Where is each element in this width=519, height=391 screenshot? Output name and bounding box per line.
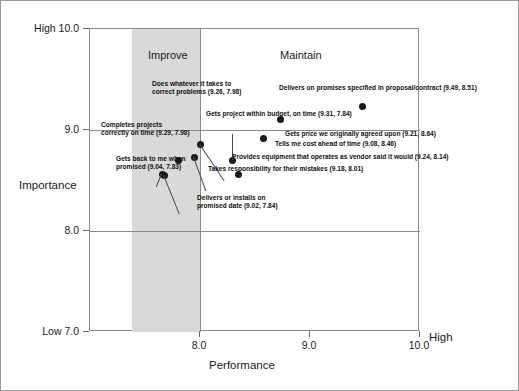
axis-end-label-high: High bbox=[429, 331, 453, 343]
point-label: Delivers on promises specified in propos… bbox=[279, 84, 477, 92]
tick-x-9 bbox=[309, 331, 310, 337]
point-label: Gets project within budget, on time (9.3… bbox=[206, 110, 352, 118]
point-label: Delivers or installs on promised date (9… bbox=[197, 194, 278, 210]
tick-y-8 bbox=[83, 230, 89, 231]
tick-label-y-7: Low 7.0 bbox=[15, 325, 79, 337]
tick-label-y-9: 9.0 bbox=[15, 123, 79, 135]
point-label: Gets price we originally agreed upon (9.… bbox=[285, 130, 436, 138]
axis-title-performance: Performance bbox=[209, 359, 275, 371]
scatter-chart-figure: Improve Maintain High 10.0 9.0 8.0 Low 7… bbox=[0, 0, 519, 391]
tick-label-x-8: 8.0 bbox=[176, 339, 222, 351]
tick-y-9 bbox=[83, 129, 89, 130]
quadrant-label-maintain: Maintain bbox=[280, 49, 322, 61]
quadrant-label-improve: Improve bbox=[148, 49, 188, 61]
point-label: Completes projects correctly on time (9.… bbox=[101, 121, 190, 137]
tick-y-10 bbox=[83, 28, 89, 29]
tick-label-y-10: High 10.0 bbox=[15, 22, 79, 34]
tick-label-x-9: 9.0 bbox=[286, 339, 332, 351]
point-label: Tells me cost ahead of time (9.08, 8.46) bbox=[275, 140, 396, 148]
plot-area: Improve Maintain bbox=[89, 28, 419, 331]
tick-x-10 bbox=[419, 331, 420, 337]
tick-label-y-8: 8.0 bbox=[15, 224, 79, 236]
axis-title-importance: Importance bbox=[19, 179, 77, 191]
gridline-horizontal-8 bbox=[90, 231, 420, 232]
point-label: Gets back to me when promised (9.04, 7.8… bbox=[116, 155, 186, 171]
tick-x-8 bbox=[199, 331, 200, 337]
point-label: Does whatever it takes to correct proble… bbox=[152, 80, 241, 96]
leader-line bbox=[199, 144, 224, 181]
tick-y-7 bbox=[83, 331, 89, 332]
data-point[interactable] bbox=[260, 135, 267, 142]
point-label: Takes responsibility for their mistakes … bbox=[208, 165, 363, 173]
point-label: Provides equipment that operates as vend… bbox=[232, 153, 449, 161]
data-point[interactable] bbox=[359, 103, 366, 110]
